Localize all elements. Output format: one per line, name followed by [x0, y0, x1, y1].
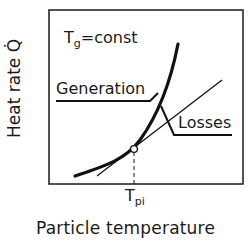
losses-label: Losses	[178, 115, 231, 131]
condition-suffix: =const	[81, 28, 138, 47]
tpi-subscript: pi	[135, 195, 145, 208]
condition-label: Tg=const	[64, 30, 138, 49]
condition-symbol: T	[64, 28, 74, 47]
generation-label: Generation	[56, 81, 145, 97]
condition-subscript: g	[74, 37, 81, 50]
tpi-symbol: T	[125, 186, 135, 205]
intersection-marker	[131, 146, 138, 153]
y-axis-label: Heat rate Q̇	[4, 39, 24, 138]
tpi-label: Tpi	[125, 188, 145, 207]
x-axis-label: Particle temperature	[36, 220, 215, 237]
